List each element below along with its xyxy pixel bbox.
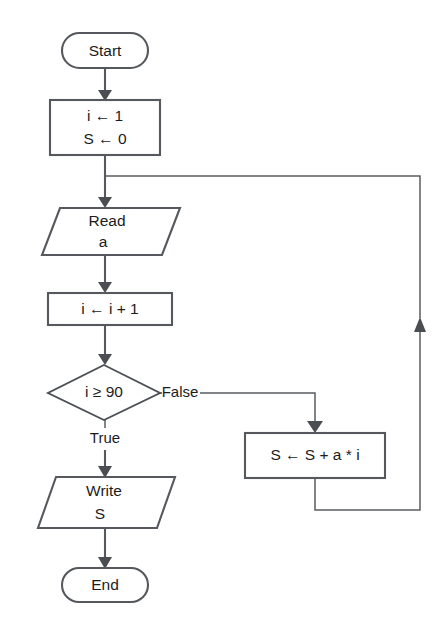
node-init[interactable]: i ← 1 S ← 0	[50, 100, 160, 155]
connector-start-to-init	[98, 68, 112, 101]
connector-write-to-end	[98, 528, 112, 569]
node-increment[interactable]: i ← i + 1	[48, 293, 172, 325]
read-label-line1: Read	[88, 212, 125, 229]
flowchart-canvas: Start i ← 1 S ← 0 Read a i ← i + 1 i ≥ 9…	[0, 0, 443, 634]
node-decision[interactable]: i ≥ 90	[48, 365, 160, 420]
flowchart-page: Start i ← 1 S ← 0 Read a i ← i + 1 i ≥ 9…	[0, 0, 443, 634]
accumulate-label: S ← S + a * i	[270, 446, 359, 463]
node-end[interactable]: End	[62, 568, 148, 602]
increment-label: i ← i + 1	[81, 300, 138, 317]
write-label-line1: Write	[86, 482, 122, 499]
node-read[interactable]: Read a	[42, 208, 180, 255]
edge-label-true: True	[90, 429, 120, 446]
write-label-line2: S	[95, 505, 105, 522]
decision-label: i ≥ 90	[85, 383, 123, 400]
node-start[interactable]: Start	[62, 33, 148, 68]
connector-init-to-read	[98, 155, 112, 208]
connector-increment-to-decision	[98, 325, 112, 365]
node-accumulate[interactable]: S ← S + a * i	[245, 433, 385, 478]
init-label-line1: i ← 1	[87, 107, 123, 124]
connector-read-to-increment	[98, 255, 112, 293]
init-label-line2: S ← 0	[83, 130, 126, 147]
start-label: Start	[89, 42, 122, 59]
edge-label-false: False	[162, 383, 199, 400]
end-label: End	[91, 576, 119, 593]
connector-accumulate-to-loopback	[315, 332, 420, 510]
node-write[interactable]: Write S	[38, 477, 175, 528]
read-label-line2: a	[99, 233, 108, 250]
